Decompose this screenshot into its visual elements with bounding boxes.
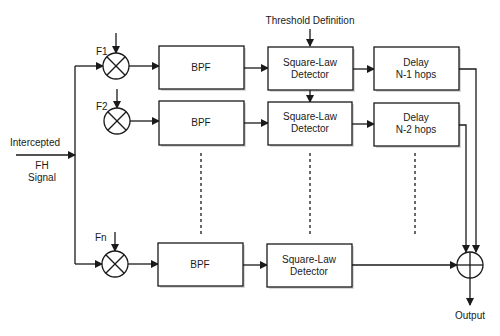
fh-detector-block-diagram: Threshold Definition Intercepted FH Sign…: [0, 0, 500, 336]
channel-2: F2 BPF Square-Law Detector Delay N-2 hop…: [96, 89, 466, 252]
delay-label-1a: Delay: [403, 57, 429, 68]
detector-label-2b: Detector: [291, 123, 329, 134]
delay-label-2a: Delay: [403, 112, 429, 123]
threshold-label: Threshold Definition: [266, 15, 355, 26]
detector-label-2a: Square-Law: [283, 111, 338, 122]
output-label: Output: [455, 310, 485, 321]
input-label-line1: Intercepted: [10, 137, 60, 148]
freq-label-fn: Fn: [95, 232, 107, 243]
input-label-line3: Signal: [28, 172, 56, 183]
bpf-label-n: BPF: [190, 259, 209, 270]
detector-label-na: Square-Law: [282, 254, 337, 265]
channel-n: Fn BPF Square-Law Detector: [75, 232, 457, 289]
delay-label-2b: N-2 hops: [396, 124, 437, 135]
detector-label-1b: Detector: [291, 69, 329, 80]
mixer-icon: [104, 108, 130, 134]
bpf-label-2: BPF: [191, 117, 210, 128]
freq-label-f2: F2: [96, 101, 108, 112]
freq-label-f1: F1: [96, 46, 108, 57]
bpf-label-1: BPF: [191, 62, 210, 73]
summer-icon: [457, 252, 483, 278]
input-label-line2: FH: [35, 160, 48, 171]
detector-label-nb: Detector: [290, 266, 328, 277]
mixer-icon: [102, 251, 128, 277]
mixer-icon: [103, 53, 129, 79]
detector-label-1a: Square-Law: [283, 57, 338, 68]
delay-label-1b: N-1 hops: [396, 69, 437, 80]
